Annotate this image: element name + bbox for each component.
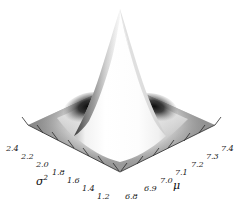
sigma-glyph: σ	[36, 175, 44, 188]
mu-tick-label-6: 7.4	[221, 144, 233, 152]
sigma-tick-label-5: 1.4	[82, 184, 94, 192]
mu-axis-title: μ	[173, 180, 180, 191]
surface-spike	[74, 9, 166, 162]
sigma-tick-label-2: 2.0	[36, 160, 48, 168]
sigma-exponent: 2	[44, 174, 48, 182]
sigma-tick-label-1: 2.2	[21, 152, 33, 160]
mu-tick-label-0: 6.8	[125, 192, 137, 200]
sigma-tick-label-0: 2.4	[6, 144, 18, 152]
mu-tick-label-1: 6.9	[144, 184, 156, 192]
mu-tick-label-5: 7.3	[206, 152, 218, 160]
surface-mesh	[34, 9, 206, 164]
sigma-tick-label-4: 1.6	[67, 176, 79, 184]
mu-tick-label-2: 7.0	[160, 176, 172, 184]
mu-tick-label-3: 7.1	[175, 168, 187, 176]
sigma-squared-axis-title: σ2	[36, 176, 48, 187]
mu-tick-label-4: 7.2	[191, 160, 203, 168]
sigma-tick-label-3: 1.8	[52, 168, 64, 176]
surface-plot-figure: 2.4 2.2 2.0 1.8 1.6 1.4 1.2 6.8 6.9 7.0 …	[0, 0, 237, 214]
sigma-tick-label-6: 1.2	[97, 192, 109, 200]
